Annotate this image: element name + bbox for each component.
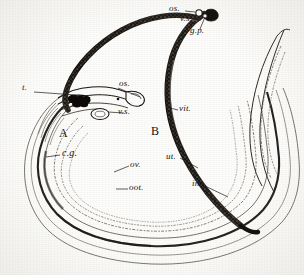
label-intestine: int. bbox=[192, 179, 205, 188]
specimen-a-tail bbox=[250, 29, 290, 192]
label-ovary: ov. bbox=[130, 160, 141, 169]
label-specimen-b: B bbox=[151, 125, 159, 137]
label-genital-pore: g.p. bbox=[190, 26, 204, 35]
label-oral-sucker-a: os. bbox=[119, 79, 130, 88]
label-uterus: ut. bbox=[166, 152, 176, 161]
label-ventral-sucker-b: v.s. bbox=[180, 14, 192, 23]
figure-root: t. os. v.s. os. v.s. g.p. vit. A B c.g. … bbox=[0, 0, 304, 275]
label-oral-sucker-b: os. bbox=[169, 4, 180, 13]
label-gynaecophoric-canal: c.g. bbox=[62, 148, 77, 158]
label-specimen-a: A bbox=[59, 127, 68, 139]
specimen-b-body bbox=[65, 9, 258, 232]
label-testes: t. bbox=[22, 83, 27, 92]
label-vitellaria: vit. bbox=[179, 104, 191, 113]
label-ootype: oot. bbox=[129, 183, 144, 192]
label-ventral-sucker-a: v.s. bbox=[118, 107, 130, 116]
